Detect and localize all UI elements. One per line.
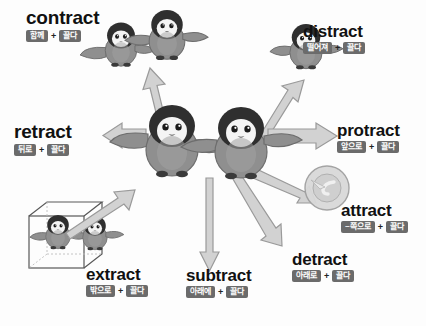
word-label-subtract: subtract 아래에 + 끌다 xyxy=(186,267,251,298)
word-label-extract: extract 밖으로 + 끌다 xyxy=(86,266,148,297)
word-text-protract: protract xyxy=(337,122,400,139)
word-parts-attract: ~쪽으로 + 끌다 xyxy=(341,221,408,233)
word-text-attract: attract xyxy=(341,202,408,219)
word-parts-extract: 밖으로 + 끌다 xyxy=(86,285,148,297)
word-text-extract: extract xyxy=(86,266,148,283)
plus-symbol: + xyxy=(324,271,329,281)
word-parts-retract: 뒤로 + 끌다 xyxy=(14,144,72,156)
plus-symbol: + xyxy=(218,287,223,297)
plus-symbol: + xyxy=(335,43,340,53)
root-chip-attract: 끌다 xyxy=(386,221,408,233)
prefix-chip-distract: 떨어져 xyxy=(303,42,332,54)
root-chip-protract: 끌다 xyxy=(377,141,399,153)
prefix-chip-detract: 아래로 xyxy=(292,270,321,282)
word-parts-protract: 앞으로 + 끌다 xyxy=(337,141,400,153)
prefix-chip-protract: 앞으로 xyxy=(337,141,366,153)
word-parts-subtract: 아래에 + 끌다 xyxy=(186,286,251,298)
word-label-distract: distract 떨어져 + 끌다 xyxy=(303,23,365,54)
word-parts-distract: 떨어져 + 끌다 xyxy=(303,42,365,54)
prefix-chip-attract: ~쪽으로 xyxy=(341,221,375,233)
prefix-chip-contract: 함께 xyxy=(26,30,48,42)
word-text-detract: detract xyxy=(292,251,354,268)
root-chip-retract: 끌다 xyxy=(47,144,69,156)
arrows xyxy=(103,68,337,271)
plus-symbol: + xyxy=(378,222,383,232)
diagram-canvas: contract 함께 + 끌다 distract 떨어져 + 끌다 retra… xyxy=(0,0,426,326)
word-label-protract: protract 앞으로 + 끌다 xyxy=(337,122,400,153)
plus-symbol: + xyxy=(369,142,374,152)
extract-illustration xyxy=(29,190,135,268)
prefix-chip-retract: 뒤로 xyxy=(14,144,36,156)
plus-symbol: + xyxy=(39,145,44,155)
plus-symbol: + xyxy=(118,286,123,296)
word-label-attract: attract ~쪽으로 + 끌다 xyxy=(341,202,408,233)
word-text-distract: distract xyxy=(303,23,365,40)
root-chip-contract: 끌다 xyxy=(59,30,81,42)
root-chip-detract: 끌다 xyxy=(332,270,354,282)
plus-symbol: + xyxy=(51,31,56,41)
word-label-detract: detract 아래로 + 끌다 xyxy=(292,251,354,282)
word-text-contract: contract xyxy=(26,8,99,27)
root-chip-distract: 끌다 xyxy=(343,42,365,54)
word-parts-detract: 아래로 + 끌다 xyxy=(292,270,354,282)
prefix-chip-extract: 밖으로 xyxy=(86,285,115,297)
word-label-contract: contract 함께 + 끌다 xyxy=(26,8,99,42)
root-chip-extract: 끌다 xyxy=(126,285,148,297)
prefix-chip-subtract: 아래에 xyxy=(186,286,215,298)
root-chip-subtract: 끌다 xyxy=(226,286,248,298)
word-text-subtract: subtract xyxy=(186,267,251,284)
word-text-retract: retract xyxy=(14,122,72,141)
word-parts-contract: 함께 + 끌다 xyxy=(26,30,99,42)
word-label-retract: retract 뒤로 + 끌다 xyxy=(14,122,72,156)
